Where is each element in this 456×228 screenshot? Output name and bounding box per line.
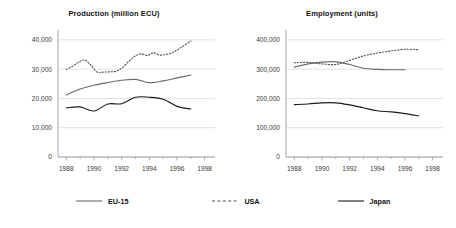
series-line-usa: [66, 41, 191, 73]
legend-item-eu-15: EU-15: [76, 197, 128, 206]
legend-label-usa: USA: [244, 197, 259, 206]
x-tick-label: 1998: [197, 165, 212, 172]
y-tick-label: 300,000: [256, 66, 280, 73]
legend-swatch-usa-line: [212, 197, 238, 205]
x-tick-label: 1990: [87, 165, 102, 172]
x-tick-label: 1994: [142, 165, 157, 172]
legend-label-japan: Japan: [370, 197, 391, 206]
y-tick-label: 100,000: [256, 124, 280, 131]
chart-panel-employment: Employment (units) 0100,000200,000300,00…: [228, 0, 456, 186]
series-line-usa: [294, 49, 419, 64]
legend-label-eu-15: EU-15: [108, 197, 128, 206]
x-tick-label: 1990: [315, 165, 330, 172]
x-tick-label: 1988: [287, 165, 302, 172]
chart-panel-production: Production (million ECU) 010,00020,00030…: [0, 0, 228, 186]
series-line-eu-15: [66, 75, 191, 95]
legend-swatch-japan-line: [338, 197, 364, 205]
plot-area-production: 010,00020,00030,00040,000198819901992199…: [0, 0, 228, 186]
plot-area-employment: 0100,000200,000300,000400,00019881990199…: [228, 0, 456, 186]
chart-panels: Production (million ECU) 010,00020,00030…: [0, 0, 456, 186]
x-tick-label: 1998: [425, 165, 440, 172]
x-tick-label: 1992: [342, 165, 357, 172]
x-tick-label: 1994: [370, 165, 385, 172]
y-tick-label: 200,000: [256, 95, 280, 102]
y-tick-label: 10,000: [32, 124, 53, 131]
legend-row: EU-15 USA Japan: [0, 191, 456, 211]
x-tick-label: 1996: [170, 165, 185, 172]
y-tick-label: 0: [48, 153, 52, 160]
y-tick-label: 400,000: [256, 36, 280, 43]
legend-item-japan: Japan: [338, 197, 391, 206]
figure-root: Production (million ECU) 010,00020,00030…: [0, 0, 456, 228]
x-tick-label: 1992: [114, 165, 129, 172]
chart-legend: EU-15 USA Japan: [0, 186, 456, 228]
y-tick-label: 30,000: [32, 66, 53, 73]
y-tick-label: 0: [276, 153, 280, 160]
x-tick-label: 1988: [59, 165, 74, 172]
series-line-japan: [294, 103, 419, 116]
y-tick-label: 20,000: [32, 95, 53, 102]
legend-swatch-eu-15-line: [76, 197, 102, 205]
legend-item-usa: USA: [212, 197, 259, 206]
y-tick-label: 40,000: [32, 36, 53, 43]
x-tick-label: 1996: [398, 165, 413, 172]
series-line-japan: [66, 97, 191, 111]
